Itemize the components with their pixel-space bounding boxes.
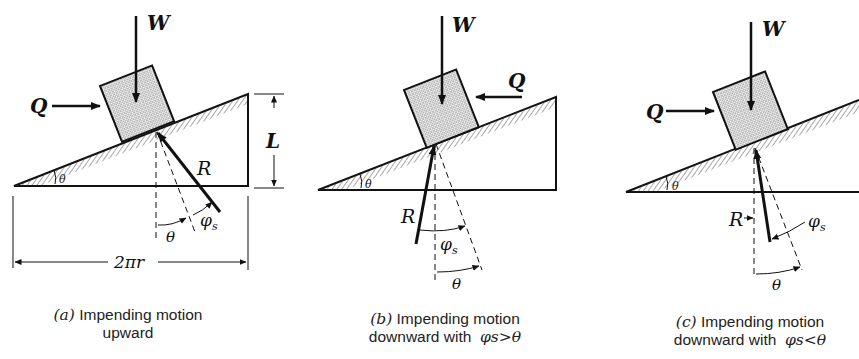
phi-arc-b [420,226,465,231]
caption-b-line2-text: downward with [369,328,472,345]
push-label-c: Q [646,100,664,124]
theta-arc-a [158,218,186,225]
reaction-label-b: R [400,205,415,227]
caption-c-line2-text: downward with [674,331,777,348]
weight-label-c: W [762,17,787,41]
panel-a: W Q R θ φs θ L 2πr [13,11,284,272]
phi-label-c: φs [808,211,826,234]
push-label-a: Q [30,94,48,118]
caption-c: (c) Impending motion downward with φs<θ [640,313,859,349]
caption-c-label: (c) [676,313,697,331]
incline-angle-label-b: θ [365,178,372,191]
reaction-label-a: R [196,157,211,179]
height-label-a: L [265,129,280,153]
normal-dashed-a [157,132,195,232]
phi-label-b: φs [440,234,458,257]
push-label-b: Q [508,69,526,93]
caption-b-label: (b) [370,310,392,328]
caption-a-line2: upward [28,324,228,342]
theta-arc-c [756,267,800,274]
caption-a-label: (a) [54,306,75,324]
theta-label-c: θ [772,276,781,294]
normal-dashed-c [755,148,802,270]
caption-a: (a) Impending motion upward [28,306,228,342]
caption-c-condition: φs<θ [785,331,826,349]
phi-label-a: φs [200,210,218,233]
caption-b-condition: φs>θ [480,328,521,346]
reaction-label-c: R [728,208,743,230]
incline-angle-label-a: θ [59,173,66,186]
panel-c: W Q R φs θ θ [626,17,859,294]
incline-angle-label-c: θ [672,180,679,193]
caption-a-line1: Impending motion [79,306,202,323]
weight-label-b: W [452,13,477,37]
caption-b: (b) Impending motion downward with φs>θ [330,310,560,346]
screw-friction-diagram: W Q R θ φs θ L 2πr [0,0,859,359]
weight-label-a: W [147,11,172,35]
theta-arc-b [437,266,479,272]
reaction-arrow-c [756,150,770,242]
phi-arc-c [772,222,805,239]
panel-b: W Q R φs θ θ [318,13,556,293]
caption-b-line1: Impending motion [397,310,520,327]
caption-c-line1: Impending motion [701,313,824,330]
base-label-a: 2πr [113,252,145,272]
theta-label-a: θ [166,228,175,246]
theta-label-b: θ [452,275,461,293]
